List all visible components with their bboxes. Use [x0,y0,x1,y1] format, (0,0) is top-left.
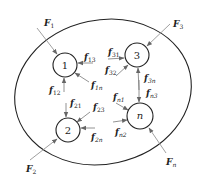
label-Fn: Fn [165,157,176,168]
multi-body-force-diagram: 1 3 2 n F1 F3 F2 Fn f13 f1n f12 f31 f32 … [0,0,200,179]
node-2-label: 2 [65,125,71,136]
node-2: 2 [56,118,80,142]
node-n-label: n [137,110,143,121]
label-f13: f13 [83,52,96,63]
node-n: n [127,103,153,129]
force-arrow-fn2 [113,120,127,122]
label-F1: F1 [43,18,54,29]
label-fn2: fn2 [114,127,127,138]
label-f2n: f2n [90,132,103,143]
label-F2: F2 [25,164,36,175]
force-arrow-f31 [108,58,124,59]
label-f12: f12 [48,85,61,96]
label-f23: f23 [92,102,105,113]
label-f31: f31 [107,47,120,58]
label-f3n: f3n [143,73,156,84]
label-f32: f32 [104,65,117,76]
system-boundary [1,3,200,179]
label-f21: f21 [69,98,82,109]
label-fn1: fn1 [112,92,125,103]
force-arrow-f1n [75,73,89,82]
label-f1n: f1n [90,80,103,91]
node-3: 3 [125,43,149,67]
label-F3: F3 [172,19,183,30]
force-arrow-F1 [37,28,57,54]
label-fn3: fn3 [145,88,158,99]
force-arrow-f23 [77,112,90,122]
force-arrow-f32 [116,65,128,76]
node-1: 1 [53,53,77,77]
node-3-label: 3 [134,50,140,61]
force-arrow-fn1 [116,103,128,110]
node-1-label: 1 [62,60,68,71]
